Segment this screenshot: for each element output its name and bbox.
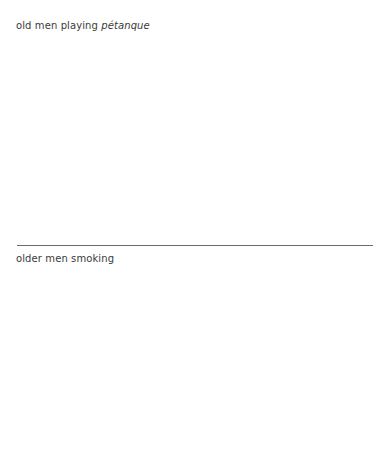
section-divider (17, 245, 373, 246)
caption-emphasis: pétanque (101, 20, 150, 31)
caption-text: old men playing (16, 20, 101, 31)
caption-old-men-petanque: old men playing pétanque (16, 20, 150, 31)
caption-older-men-smoking: older men smoking (16, 253, 114, 264)
